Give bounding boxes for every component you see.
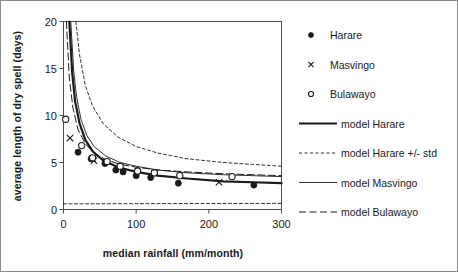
y-tick-label: 10 <box>45 110 57 122</box>
x-axis-label: median rainfall (mm/month) <box>103 247 243 259</box>
legend-item[interactable]: Bulawayo <box>308 88 375 100</box>
x-tick-label: 300 <box>272 218 290 230</box>
y-tick-label: 20 <box>45 16 57 28</box>
marker-open-circle <box>177 173 183 179</box>
legend-item[interactable]: model Harare +/- std <box>299 147 437 159</box>
y-axis-tick-labels: 05101520 <box>45 16 57 216</box>
marker-open-circle <box>89 155 95 161</box>
marker-open-circle <box>151 170 157 176</box>
legend-item[interactable]: Harare <box>308 29 362 41</box>
y-tick-label: 5 <box>51 157 57 169</box>
x-axis-tick-marks <box>64 210 282 214</box>
x-tick-label: 0 <box>60 218 66 230</box>
x-tick-label: 100 <box>127 218 145 230</box>
y-axis-label: average length of dry spell (days) <box>11 31 23 201</box>
marker-cross <box>67 135 73 141</box>
legend-label: Masvingo <box>330 59 375 71</box>
x-axis-tick-labels: 0100200300 <box>60 218 290 230</box>
marker-cross <box>308 62 313 67</box>
legend-label: model Harare +/- std <box>341 147 437 159</box>
marker-open-circle <box>135 168 141 174</box>
observed-data-markers <box>63 116 257 188</box>
y-tick-label: 15 <box>45 63 57 75</box>
legend-item[interactable]: model Masvingo <box>299 177 418 189</box>
y-axis-tick-marks <box>60 22 64 210</box>
marker-open-circle <box>229 174 235 180</box>
y-tick-label: 0 <box>51 204 57 216</box>
marker-filled-circle <box>175 180 181 186</box>
legend-item[interactable]: model Bulawayo <box>299 206 418 218</box>
legend-label: Harare <box>330 29 362 41</box>
legend-label: model Bulawayo <box>341 206 418 218</box>
model-curve <box>76 22 282 167</box>
marker-open-circle <box>79 142 85 148</box>
marker-open-circle <box>117 163 123 169</box>
marker-filled-circle <box>308 32 313 37</box>
figure-page: average length of dry spell (days) media… <box>0 0 458 272</box>
legend-item[interactable]: Masvingo <box>308 59 375 71</box>
model-curve <box>71 22 282 177</box>
legend-label: Bulawayo <box>330 88 376 100</box>
x-tick-label: 200 <box>200 218 218 230</box>
legend-label: model Masvingo <box>341 177 418 189</box>
legend-label: model Harare <box>341 118 405 130</box>
marker-filled-circle <box>75 149 81 155</box>
dry-spell-vs-rainfall-chart: average length of dry spell (days) media… <box>1 1 458 272</box>
legend-item[interactable]: model Harare <box>299 118 405 130</box>
model-curves <box>64 22 282 204</box>
marker-filled-circle <box>251 182 257 188</box>
chart-legend: HarareMasvingoBulawayomodel Hararemodel … <box>299 29 437 218</box>
marker-open-circle <box>63 116 69 122</box>
marker-open-circle <box>308 91 313 96</box>
model-curve <box>66 22 281 176</box>
marker-open-circle <box>104 158 110 164</box>
model-curve <box>69 22 281 184</box>
